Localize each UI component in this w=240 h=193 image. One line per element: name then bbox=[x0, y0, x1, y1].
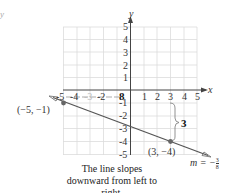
y-tick: 5 bbox=[123, 22, 128, 32]
axes bbox=[63, 20, 206, 155]
slope-denominator: 8 bbox=[216, 164, 219, 170]
x-tick: -2 bbox=[97, 92, 105, 102]
x-tick: 2 bbox=[155, 92, 160, 102]
y-tick: -4 bbox=[119, 137, 127, 147]
x-axis-label: x bbox=[208, 85, 212, 95]
point-b bbox=[168, 139, 173, 144]
x-tick: 5 bbox=[195, 92, 200, 102]
x-axis-arrow-icon bbox=[201, 88, 208, 93]
point-b-label: (3, −4) bbox=[148, 147, 175, 157]
y-tick: 4 bbox=[123, 35, 128, 45]
slope-fraction: 38 bbox=[216, 157, 219, 170]
caption: The line slopes downward from left to ri… bbox=[62, 163, 162, 193]
slope-label: m = −38 bbox=[190, 157, 219, 170]
corner-mark: y bbox=[0, 10, 4, 19]
y-tick: 2 bbox=[123, 61, 128, 71]
x-tick: -5 bbox=[56, 92, 64, 102]
x-tick: -4 bbox=[70, 92, 78, 102]
x-tick: 1 bbox=[142, 92, 147, 102]
y-tick: -3 bbox=[119, 124, 127, 134]
rise-brace-icon bbox=[170, 103, 179, 141]
x-tick: 4 bbox=[182, 92, 187, 102]
y-tick: -2 bbox=[119, 111, 127, 121]
x-tick: -3 bbox=[84, 92, 92, 102]
caption-line-2: downward from left to right. bbox=[62, 175, 162, 193]
y-tick: 1 bbox=[123, 73, 128, 83]
caption-line-1: The line slopes bbox=[62, 163, 162, 175]
slope-prefix: m = − bbox=[190, 157, 216, 168]
slope-numerator: 3 bbox=[216, 157, 219, 164]
point-a-label: (−5, −1) bbox=[17, 105, 50, 115]
y-tick: -5 bbox=[119, 150, 127, 160]
y-tick: 3 bbox=[123, 48, 128, 58]
x-tick: 3 bbox=[168, 92, 173, 102]
y-axis-label: y bbox=[129, 9, 133, 19]
rise-label: 3 bbox=[181, 118, 187, 129]
run-label: 8 bbox=[119, 91, 125, 102]
